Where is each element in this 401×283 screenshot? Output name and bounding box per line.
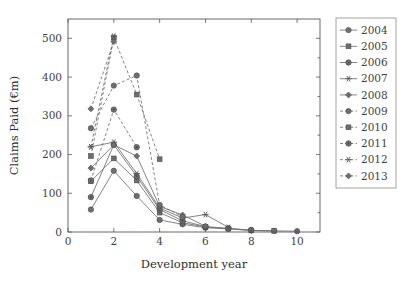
chart-legend: 2004200520062007200820092010201120122013 — [336, 18, 396, 188]
marker-circle — [134, 73, 139, 78]
marker-circle — [157, 217, 162, 222]
legend-label-2008: 2008 — [361, 89, 388, 101]
marker-circle-filled-core — [113, 109, 115, 111]
y-tick-label: 400 — [42, 71, 62, 83]
legend-label-2009: 2009 — [361, 105, 388, 117]
x-tick-label: 6 — [202, 235, 209, 247]
marker-circle — [157, 202, 162, 207]
series-2008 — [88, 142, 209, 229]
marker-circle — [180, 214, 185, 219]
legend-label-2004: 2004 — [361, 24, 388, 36]
x-tick-label: 8 — [248, 235, 255, 247]
chart-canvas: 02468100100200300400500Development yearC… — [0, 0, 401, 283]
plot-frame — [68, 19, 320, 232]
x-axis-title: Development year — [141, 257, 248, 271]
chart-figure: 02468100100200300400500Development yearC… — [0, 0, 401, 283]
marker-circle — [88, 126, 93, 131]
marker-circle — [134, 193, 139, 198]
marker-square — [346, 44, 351, 49]
marker-circle-filled-core — [136, 146, 138, 148]
marker-square — [134, 92, 139, 97]
y-tick-label: 200 — [42, 148, 62, 160]
x-tick-label: 2 — [110, 235, 117, 247]
legend-label-2007: 2007 — [361, 72, 388, 84]
marker-circle-filled-core — [90, 179, 92, 181]
y-tick-label: 0 — [55, 226, 62, 238]
marker-diamond — [88, 106, 94, 112]
marker-diamond — [134, 153, 140, 159]
marker-circle — [88, 207, 93, 212]
legend-label-2006: 2006 — [361, 56, 388, 68]
legend-label-2010: 2010 — [361, 121, 388, 133]
marker-circle — [346, 27, 351, 32]
series-2012 — [88, 33, 117, 149]
marker-square — [346, 125, 351, 130]
marker-circle — [111, 83, 116, 88]
x-tick-label: 4 — [156, 235, 163, 247]
marker-circle-filled-core — [347, 142, 349, 144]
x-tick-label: 0 — [65, 235, 72, 247]
plot-area — [88, 33, 300, 234]
marker-square — [157, 157, 162, 162]
series-2013 — [88, 38, 117, 111]
series-2010 — [89, 35, 163, 161]
marker-circle — [111, 168, 116, 173]
marker-circle-filled-core — [347, 61, 349, 63]
marker-square — [272, 228, 277, 233]
series-line-2004 — [91, 171, 297, 231]
y-tick-label: 300 — [42, 109, 62, 121]
y-axis-title: Claims Paid (€m) — [7, 76, 21, 175]
y-tick-label: 100 — [42, 187, 62, 199]
legend-label-2011: 2011 — [361, 137, 388, 149]
legend-label-2013: 2013 — [361, 170, 388, 182]
marker-circle — [346, 108, 351, 113]
marker-circle-filled-core — [90, 196, 92, 198]
legend-label-2012: 2012 — [361, 153, 388, 165]
marker-square — [111, 156, 116, 161]
marker-square — [89, 154, 94, 159]
legend-label-2005: 2005 — [361, 40, 388, 52]
x-tick-label: 10 — [290, 235, 303, 247]
series-2007 — [88, 139, 232, 230]
y-tick-label: 500 — [42, 32, 62, 44]
